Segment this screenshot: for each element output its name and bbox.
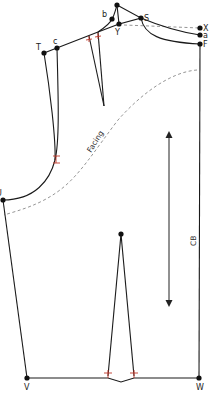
label-a: a	[203, 31, 208, 40]
point-c	[54, 45, 59, 50]
hem-line	[27, 378, 199, 382]
shoulder-dart-left	[89, 36, 104, 106]
grainline-arrow-up-icon	[166, 131, 173, 138]
label-S: S	[144, 14, 149, 23]
label-b: b	[102, 10, 107, 19]
armhole-outer	[44, 53, 55, 160]
point-b	[109, 16, 114, 21]
waist-dart-left	[108, 234, 121, 376]
point-Y	[116, 21, 121, 26]
point-V	[24, 375, 29, 380]
point-U	[0, 197, 5, 202]
center-back-line	[199, 44, 200, 378]
grainline-arrow-down-icon	[166, 300, 173, 307]
waist-dart-notch	[104, 370, 138, 378]
shoulder-dart-right	[98, 32, 104, 106]
label-top: Z	[114, 0, 120, 1]
label-V: V	[24, 383, 30, 392]
point-W	[196, 375, 201, 380]
point-S	[138, 15, 143, 20]
point-a	[197, 32, 202, 37]
point-F	[197, 41, 202, 46]
label-U: U	[0, 189, 2, 198]
side-seam	[3, 200, 27, 378]
waist-dart-right	[121, 234, 134, 376]
pattern-diagram: Z b Y S X a F T c U V W Facing CB	[0, 0, 209, 402]
armhole-inner	[3, 48, 58, 200]
point-top	[114, 2, 119, 7]
label-c: c	[53, 37, 57, 46]
point-X	[197, 25, 202, 30]
label-W: W	[196, 383, 204, 392]
label-F: F	[203, 40, 208, 49]
point-T	[41, 50, 46, 55]
label-T: T	[35, 43, 41, 52]
center-back-label: CB	[189, 236, 198, 246]
point-dart	[118, 231, 123, 236]
shoulder-top-triangle	[117, 5, 141, 24]
label-Y: Y	[114, 28, 120, 37]
